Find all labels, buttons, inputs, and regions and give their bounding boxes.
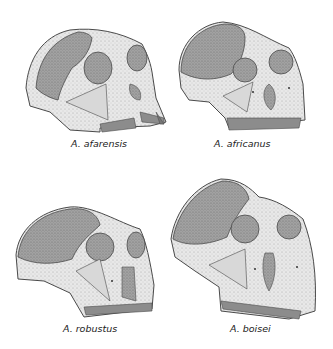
skull-africanus-illustration [165, 0, 333, 160]
panel-boisei: A. boisei [165, 175, 333, 349]
caption-robustus: A. robustus [63, 323, 117, 334]
caption-boisei: A. boisei [230, 323, 271, 334]
caption-afarensis: A. afarensis [71, 138, 127, 149]
skull-afarensis-illustration [0, 0, 170, 160]
panel-africanus: A. africanus [165, 0, 333, 160]
caption-africanus: A. africanus [214, 138, 270, 149]
panel-robustus: A. robustus [0, 175, 170, 349]
panel-afarensis: A. afarensis [0, 0, 170, 160]
